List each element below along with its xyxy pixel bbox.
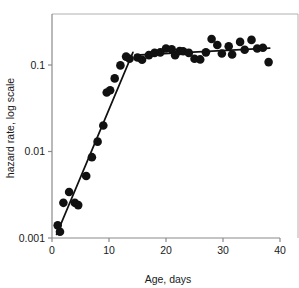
data-point [74, 201, 83, 210]
x-tick-label: 20 [160, 244, 172, 256]
hazard-rate-scatter-chart: 0.0010.010.1 010203040 hazard rate, log … [0, 0, 299, 288]
y-axis-label: hazard rate, log scale [4, 78, 16, 179]
data-point [116, 61, 125, 70]
data-point [110, 74, 119, 83]
y-tick-label: 0.001 [19, 232, 45, 244]
data-point [224, 42, 233, 51]
data-point [240, 45, 249, 54]
data-point [202, 48, 211, 57]
data-point [259, 44, 268, 53]
data-point [99, 121, 108, 130]
x-tick-label: 10 [103, 244, 115, 256]
data-point [228, 50, 237, 59]
chart-container: 0.0010.010.1 010203040 hazard rate, log … [0, 0, 299, 288]
data-point [56, 227, 65, 236]
data-point [125, 54, 134, 63]
data-point [236, 38, 245, 47]
data-point [59, 199, 68, 208]
x-tick-label: 30 [217, 244, 229, 256]
x-tick-label: 0 [49, 244, 55, 256]
x-axis-label: Age, days [145, 273, 192, 285]
data-point [247, 36, 256, 45]
data-point [88, 153, 97, 162]
data-point [213, 41, 222, 50]
data-point [218, 49, 227, 58]
data-point [106, 86, 115, 95]
data-point [196, 55, 205, 64]
data-point [65, 188, 74, 197]
data-point [264, 58, 273, 67]
data-point [82, 172, 91, 181]
y-tick-label: 0.1 [30, 59, 45, 71]
y-tick-label: 0.01 [25, 145, 46, 157]
data-point [93, 137, 102, 146]
x-tick-label: 40 [274, 244, 286, 256]
